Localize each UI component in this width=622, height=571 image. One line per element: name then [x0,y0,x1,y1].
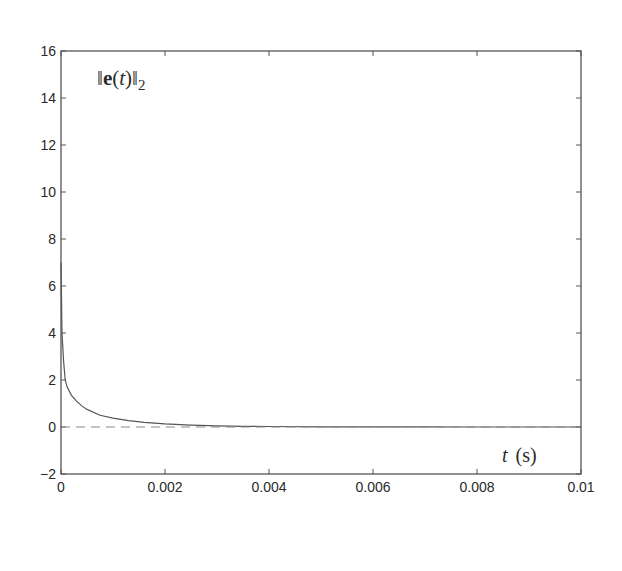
plot-series [61,263,581,428]
x-tick-label: 0.002 [147,479,182,495]
y-tick-label: −2 [40,466,56,482]
y-tick-label: 16 [40,43,56,59]
y-tick-label: 12 [40,137,56,153]
x-tick-labels: 00.0020.0040.0060.0080.01 [57,479,595,495]
x-tick-label: 0.006 [355,479,390,495]
y-tick-label: 10 [40,184,56,200]
x-tick-label: 0.01 [567,479,594,495]
y-tick-labels: −20246810121416 [40,43,56,482]
x-tick-label: 0 [57,479,65,495]
axis-ticks [61,51,581,474]
chart: −20246810121416 00.0020.0040.0060.0080.0… [0,0,622,571]
error-norm-curve [61,263,581,428]
y-tick-label: 2 [48,372,56,388]
y-tick-label: 14 [40,90,56,106]
y-tick-label: 4 [48,325,56,341]
norm-annotation: ‖e(t)‖2 [97,66,145,93]
x-axis-label: t(s) [502,444,537,467]
x-tick-label: 0.008 [459,479,494,495]
y-tick-label: 0 [48,419,56,435]
x-tick-label: 0.004 [251,479,286,495]
y-tick-label: 6 [48,278,56,294]
plot-frame [61,51,581,474]
y-tick-label: 8 [48,231,56,247]
